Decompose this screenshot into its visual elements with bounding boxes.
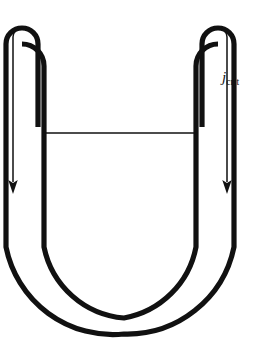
left-flux-arrow-head: [8, 180, 17, 194]
inner-wall-path: [22, 44, 218, 318]
figure-canvas: jcrit: [0, 0, 257, 345]
critical-current-subscript: crit: [226, 77, 239, 87]
left-flux-arrow: [8, 28, 22, 194]
right-flux-arrow: [218, 28, 232, 194]
u-tube-diagram: [0, 0, 257, 345]
critical-current-label: jcrit: [222, 70, 239, 87]
right-flux-arrow-shaft: [218, 28, 227, 182]
right-flux-arrow-head: [222, 180, 231, 194]
outer-wall-path: [6, 28, 234, 335]
left-flux-arrow-shaft: [13, 28, 22, 182]
